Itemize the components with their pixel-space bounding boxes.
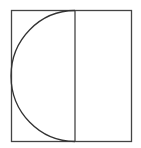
diagram-canvas [0,0,141,148]
semicircle-arc [11,11,75,142]
